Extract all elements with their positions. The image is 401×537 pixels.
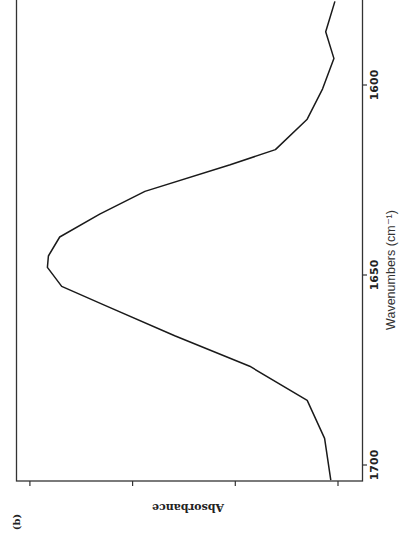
absorbance-axis-title: Absorbance xyxy=(152,501,225,514)
wavenumber-tick-label: 1600 xyxy=(368,69,381,100)
absorbance-axis-ticks xyxy=(30,481,338,486)
wavenumber-tick-label: 1700 xyxy=(368,449,381,480)
spectrum-line xyxy=(47,1,335,480)
absorbance-spectrum-chart: 170016501600 Absorbance Wavenumbers (cm⁻… xyxy=(0,0,401,537)
wavenumber-axis-ticks: 170016501600 xyxy=(363,69,382,480)
wavenumber-tick-label: 1650 xyxy=(368,259,381,290)
wavenumber-axis-title: Wavenumbers (cm⁻¹) xyxy=(384,210,398,330)
panel-label: (b) xyxy=(11,514,22,530)
